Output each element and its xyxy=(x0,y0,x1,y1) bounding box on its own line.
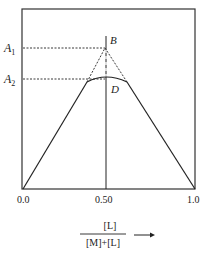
xlabel-denominator: [M]+[L] xyxy=(86,237,120,248)
x-tick-050: 0.50 xyxy=(95,194,113,205)
label-a2: A2 xyxy=(3,72,15,88)
label-b: B xyxy=(110,34,117,46)
left-solid-line xyxy=(23,82,87,189)
arrow-right-icon xyxy=(134,233,155,238)
x-tick-1: 1.0 xyxy=(187,194,200,205)
plot-frame xyxy=(22,9,195,189)
right-solid-line xyxy=(127,82,195,189)
x-tick-0: 0.0 xyxy=(17,194,30,205)
chart: A1 A2 B D 0.0 0.50 1.0 [L] [M]+[L] xyxy=(0,0,208,256)
xlabel-numerator: [L] xyxy=(104,220,117,231)
label-a1: A1 xyxy=(3,41,15,57)
curved-top xyxy=(87,77,127,82)
label-d: D xyxy=(110,83,119,95)
